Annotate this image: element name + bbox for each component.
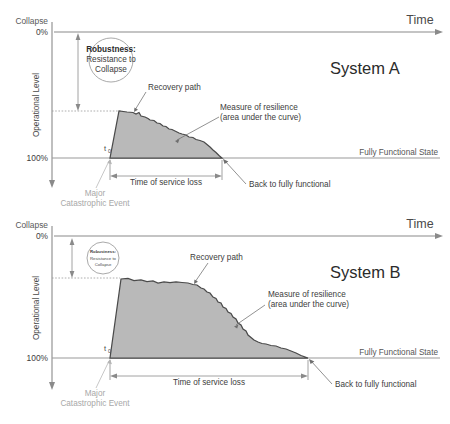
major-event-leader-a bbox=[96, 161, 109, 188]
service-loss-dimension-b bbox=[110, 360, 308, 380]
robustness-dimension-arrow-a bbox=[76, 33, 81, 111]
time-of-service-loss-label-b: Time of service loss bbox=[173, 378, 245, 387]
y-axis-0pct-label-b: 0% bbox=[36, 231, 49, 241]
robustness-line3-a: Collapse bbox=[95, 65, 127, 74]
y-axis-title-a: Operational Level bbox=[32, 73, 41, 137]
robustness-line2-b: Resistance to bbox=[90, 256, 117, 261]
major-event-leader-b bbox=[96, 361, 109, 388]
back-functional-leader-a bbox=[225, 161, 246, 184]
y-axis-100pct-label-b: 100% bbox=[27, 353, 49, 363]
fully-functional-state-label-a: Fully Functional State bbox=[359, 148, 438, 157]
back-functional-arrowhead-icon-a bbox=[223, 159, 228, 164]
y-axis-collapse-label: Collapse bbox=[15, 16, 48, 26]
y-axis-100pct-label: 100% bbox=[27, 153, 49, 163]
resilience-measure-line1-a: Measure of resilience bbox=[220, 103, 298, 112]
major-event-line2-b: Catastrophic Event bbox=[60, 399, 130, 408]
major-event-line1-a: Major bbox=[85, 189, 106, 198]
robustness-title-b: Robustness: bbox=[90, 249, 117, 254]
robustness-line3-b: Collapse bbox=[95, 262, 112, 267]
t-zero-sub-a: 0 bbox=[108, 148, 111, 154]
t-zero-sub-b: 0 bbox=[108, 348, 111, 354]
time-axis-arrowhead-icon bbox=[435, 29, 443, 35]
resilience-measure-line1-b: Measure of resilience bbox=[268, 290, 346, 299]
fully-functional-state-label-b: Fully Functional State bbox=[359, 348, 438, 357]
resilience-measure-line2-a: (area under the curve) bbox=[220, 113, 301, 122]
back-to-fully-functional-label-a: Back to fully functional bbox=[249, 180, 331, 189]
time-axis-arrowhead-icon bbox=[435, 233, 443, 239]
y-axis-collapse-label-b: Collapse bbox=[15, 220, 48, 230]
system-b-title: System B bbox=[330, 263, 401, 281]
time-axis-b bbox=[54, 233, 443, 239]
service-loss-dimension-a bbox=[110, 160, 222, 180]
back-functional-leader-b bbox=[311, 361, 332, 384]
x-axis-title-b: Time bbox=[406, 217, 433, 231]
operational-axis-arrowhead-icon bbox=[49, 180, 55, 188]
system-a-title: System A bbox=[330, 59, 400, 77]
resilience-measure-leader-b bbox=[236, 305, 265, 325]
y-axis-title-b: Operational Level bbox=[32, 276, 41, 340]
robustness-line2-a: Resistance to bbox=[86, 55, 136, 64]
system-b-chart: Collapse 0% 100% Operational Level Time … bbox=[0, 212, 450, 424]
recovery-path-leader-b bbox=[195, 263, 208, 282]
resilience-measure-leader-a bbox=[177, 117, 219, 140]
major-event-line1-b: Major bbox=[85, 389, 106, 398]
back-to-fully-functional-label-b: Back to fully functional bbox=[335, 380, 417, 389]
time-axis-a bbox=[54, 29, 443, 35]
operational-level-axis-a bbox=[49, 22, 55, 188]
recovery-path-leader-a bbox=[135, 92, 146, 110]
time-of-service-loss-label-a: Time of service loss bbox=[130, 178, 202, 187]
operational-level-axis-b bbox=[49, 226, 55, 390]
x-axis-title-a: Time bbox=[406, 13, 433, 27]
t-zero-label-a: t bbox=[104, 144, 107, 153]
t-zero-label-b: t bbox=[104, 344, 107, 353]
back-functional-arrowhead-icon-b bbox=[309, 359, 314, 364]
robustness-title-a: Robustness: bbox=[86, 45, 136, 54]
recovery-path-label-a: Recovery path bbox=[148, 83, 201, 92]
system-a-chart: Collapse 0% 100% Operational Level Time … bbox=[0, 0, 450, 212]
major-event-line2-a: Catastrophic Event bbox=[60, 199, 130, 208]
recovery-path-label-b: Recovery path bbox=[190, 253, 243, 262]
y-axis-0pct-label: 0% bbox=[36, 27, 49, 37]
resilience-area-curve-a bbox=[110, 111, 222, 158]
resilience-diagram-figure: Collapse 0% 100% Operational Level Time … bbox=[0, 0, 450, 424]
robustness-dimension-arrow-b bbox=[70, 238, 75, 278]
operational-axis-arrowhead-icon bbox=[49, 382, 55, 390]
resilience-measure-line2-b: (area under the curve) bbox=[268, 300, 349, 309]
